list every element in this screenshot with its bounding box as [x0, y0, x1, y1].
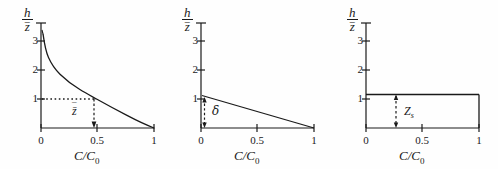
x-tick-label-05-p2: 0.5 — [246, 134, 268, 146]
zs-arrowhead-bottom — [394, 123, 398, 129]
delta-annotation-label: δ — [212, 104, 219, 118]
y-axis-label-denominator-3: –z — [347, 19, 358, 33]
delta-arrowhead-bottom — [202, 123, 206, 129]
x-tick-label-0-p2: 0 — [193, 134, 209, 146]
y-tick-label-1-p3: 1 — [349, 92, 363, 104]
x-tick-label-05-p1: 0.5 — [86, 134, 108, 146]
y-tick-label-2-p2: 2 — [184, 63, 198, 75]
hyperbolic-decay-curve — [43, 34, 154, 128]
curve-upper-tail — [42, 30, 43, 34]
chart-panel-2: h –z 1 2 3 0 0.5 1 C/C0 δ — [166, 0, 332, 169]
x-tick-label-05-p3: 0.5 — [411, 134, 433, 146]
overbar-glyph-3: – — [350, 19, 355, 25]
figure-canvas: h –z 1 2 3 0 0.5 1 C/C0 z̄ — [0, 0, 498, 169]
x-axis-label-subscript-2: 0 — [255, 156, 260, 166]
y-axis-label-1: h –z — [22, 6, 33, 33]
overbar-glyph-1: – — [25, 19, 30, 25]
y-axis-label-3: h –z — [347, 6, 358, 33]
chart-panel-1: h –z 1 2 3 0 0.5 1 C/C0 z̄ — [0, 0, 166, 169]
zs-annotation-label: Zs — [404, 104, 414, 120]
zs-subscript: s — [411, 111, 414, 120]
y-tick-label-3-p3: 3 — [349, 34, 363, 46]
zbar-arrowhead — [92, 122, 97, 129]
y-axis-label-denominator-1: –z — [22, 19, 33, 33]
x-axis-label-subscript-3: 0 — [420, 156, 425, 166]
y-tick-label-1-p1: 1 — [24, 92, 38, 104]
x-axis-label-2: C/C0 — [234, 148, 259, 166]
x-tick-label-1-p3: 1 — [471, 134, 487, 146]
zs-arrowhead-top — [394, 95, 398, 101]
y-tick-label-1-p2: 1 — [184, 92, 198, 104]
delta-arrowhead-top — [202, 97, 206, 103]
x-axis-label-1: C/C0 — [74, 148, 99, 166]
x-axis-label-subscript-1: 0 — [95, 156, 100, 166]
overbar-glyph-2: – — [185, 19, 190, 25]
y-tick-label-2-p1: 2 — [24, 63, 38, 75]
y-tick-label-2-p3: 2 — [349, 63, 363, 75]
x-tick-label-0-p3: 0 — [358, 134, 374, 146]
y-axis-label-2: h –z — [182, 6, 193, 33]
y-axis-label-denominator-2: –z — [182, 19, 193, 33]
y-tick-label-3-p2: 3 — [184, 34, 198, 46]
x-tick-label-0-p1: 0 — [33, 134, 49, 146]
zbar-annotation-label: z̄ — [72, 104, 77, 119]
y-tick-label-3-p1: 3 — [24, 34, 38, 46]
chart-panel-3: h –z 1 2 3 0 0.5 1 C/C0 Zs — [332, 0, 498, 169]
x-axis-label-3: C/C0 — [399, 148, 424, 166]
x-tick-label-1-p2: 1 — [306, 134, 322, 146]
x-tick-label-1-p1: 1 — [146, 134, 162, 146]
